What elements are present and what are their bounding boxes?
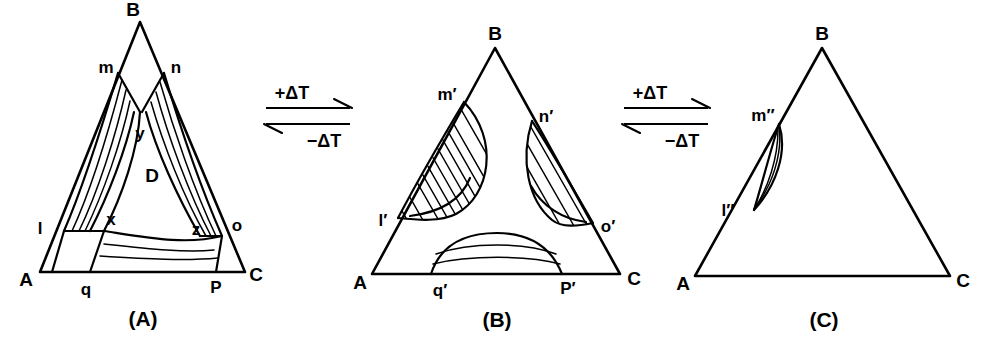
transition-a-to-b: +ΔT −ΔT <box>264 83 352 151</box>
panel-c-label-C: C <box>956 270 970 291</box>
panel-a-label-z: z <box>192 220 201 239</box>
panel-c-label-m-double-prime: m″ <box>751 106 774 125</box>
panel-a-label-n: n <box>171 58 181 77</box>
panel-a-label-C: C <box>249 264 263 285</box>
panel-b-right-lens <box>484 104 640 282</box>
panel-b-label-m-prime: m′ <box>437 85 456 104</box>
panel-c-label-l-double-prime: l″ <box>722 201 735 220</box>
panel-b-right-lens-hatching <box>484 104 640 282</box>
panel-a-triangle <box>40 22 245 272</box>
panel-a-label-x: x <box>106 210 116 229</box>
panel-b-bottom-tieline-1 <box>436 245 556 254</box>
transition-b-to-c: +ΔT −ΔT <box>622 83 710 151</box>
panel-a-o-to-P-edge <box>216 236 222 272</box>
panel-a-caption: (A) <box>128 307 157 330</box>
panel-a-label-o: o <box>232 216 242 235</box>
panel-b-label-q-prime: q′ <box>433 281 447 300</box>
panel-b-label-o-prime: o′ <box>601 217 615 236</box>
panel-a-label-B: B <box>126 0 140 20</box>
panel-a-right-band <box>142 73 222 236</box>
panel-b-triangle-outline <box>372 48 620 274</box>
panel-b-label-l-prime: l′ <box>379 211 388 230</box>
panel-a-label-A: A <box>19 269 33 290</box>
transition-b-to-c-reverse-label: −ΔT <box>665 131 699 151</box>
panel-b-bottom-dome-boundary <box>431 233 562 274</box>
panel-a-label-l: l <box>38 219 43 238</box>
panel-c-lens <box>754 124 782 210</box>
panel-a-x-to-q-edge <box>90 231 104 272</box>
panel-c-label-A: A <box>676 273 690 294</box>
panel-a-left-tieline-2 <box>79 90 126 231</box>
panel-b-label-B: B <box>488 23 502 44</box>
panel-b-label-C: C <box>627 268 641 289</box>
panel-b-label-n-prime: n′ <box>539 107 553 126</box>
transition-a-to-b-reverse-label: −ΔT <box>307 131 341 151</box>
panel-c: B A C m″ l″ (C) <box>676 23 970 331</box>
transition-a-to-b-forward-arrow-head <box>334 99 352 108</box>
panel-c-label-B: B <box>815 23 829 44</box>
panel-b-bottom-tieline-2 <box>433 257 560 264</box>
panel-c-triangle-outline <box>695 48 950 276</box>
panel-a: B A C m n y l x z o q P D (A) <box>19 0 263 330</box>
panel-a-bottom-tieline-1 <box>104 244 214 251</box>
transition-b-to-c-reverse-arrow-head <box>622 124 640 133</box>
panel-a-label-P: P <box>210 278 221 297</box>
panel-b-label-P-prime: P′ <box>560 279 575 298</box>
panel-b-label-A: A <box>353 272 367 293</box>
panel-a-label-q: q <box>81 280 91 299</box>
panel-c-triangle <box>695 48 950 276</box>
panel-a-triangle-outline <box>40 22 245 272</box>
panel-c-caption: (C) <box>809 308 838 331</box>
panel-a-label-m: m <box>98 58 113 77</box>
figure-root: B A C m n y l x z o q P D (A) +ΔT −ΔT <box>0 0 988 347</box>
ternary-phase-diagram-series: B A C m n y l x z o q P D (A) +ΔT −ΔT <box>0 0 988 347</box>
transition-b-to-c-forward-label: +ΔT <box>633 83 667 103</box>
panel-b: B A C m′ n′ l′ o′ q′ P′ (B) <box>350 23 641 331</box>
panel-a-label-D: D <box>145 165 159 186</box>
panel-b-triangle <box>372 48 620 274</box>
panel-a-bottom-tieline-2 <box>100 256 218 259</box>
transition-a-to-b-reverse-arrow-head <box>264 124 282 133</box>
panel-b-caption: (B) <box>482 308 511 331</box>
panel-a-left-band <box>64 73 140 231</box>
transition-a-to-b-forward-label: +ΔT <box>275 83 309 103</box>
panel-b-bottom-dome <box>431 233 562 274</box>
transition-b-to-c-forward-arrow-head <box>692 99 710 108</box>
panel-a-label-y: y <box>135 124 145 143</box>
